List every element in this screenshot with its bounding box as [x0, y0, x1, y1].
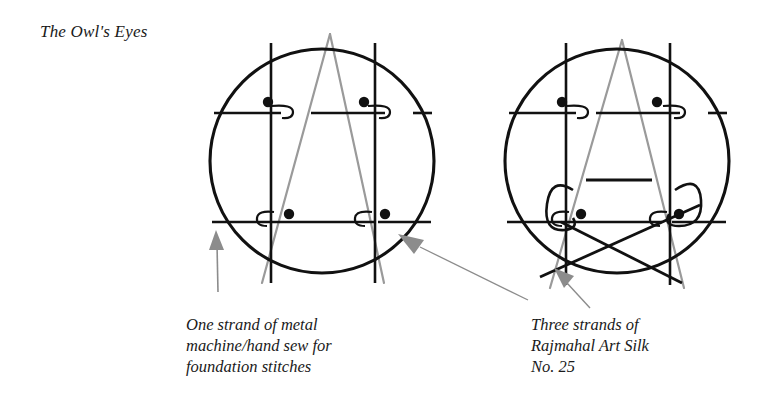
arrow-head-left — [209, 230, 224, 250]
caption-right-line-3: No. 25 — [531, 356, 649, 377]
right-eye-dot-top-1 — [557, 97, 567, 107]
arrow-head-right — [554, 268, 574, 288]
right-hook-curve-2 — [667, 184, 701, 226]
arrow-shaft-right — [567, 283, 590, 308]
diagram-svg — [0, 0, 773, 405]
caption-left-line-1: One strand of metal — [186, 314, 332, 335]
left-thread-lines — [262, 34, 384, 283]
right-outline-circle — [505, 49, 729, 273]
right-hook-curve-1 — [546, 185, 574, 230]
right-diagram-group — [505, 40, 729, 288]
arrow-shaft-left — [217, 244, 218, 292]
left-eye-dot-bottom-1 — [284, 209, 294, 219]
left-outline-circle — [210, 49, 434, 273]
right-eye-dot-bottom-2 — [674, 209, 684, 219]
caption-right-line-2: Rajmahal Art Silk — [531, 335, 649, 356]
arrow-head-middle — [398, 234, 424, 254]
caption-left-line-3: foundation stitches — [186, 356, 332, 377]
right-thread-line-left-down — [550, 40, 622, 288]
right-eye-dot-bottom-1 — [576, 209, 586, 219]
caption-left-line-2: machine/hand sew for — [186, 335, 332, 356]
left-eye-dot-bottom-2 — [380, 209, 390, 219]
caption-left: One strand of metal machine/hand sew for… — [186, 314, 332, 377]
left-diagram-group — [210, 34, 434, 283]
left-eye-dot-top-2 — [359, 97, 369, 107]
arrow-shaft-middle — [420, 247, 528, 300]
right-eye-dot-top-2 — [652, 97, 662, 107]
illustration-canvas: The Owl's Eyes — [0, 0, 773, 405]
caption-right-line-1: Three strands of — [531, 314, 649, 335]
caption-right: Three strands of Rajmahal Art Silk No. 2… — [531, 314, 649, 377]
left-eye-dot-top-1 — [263, 97, 273, 107]
right-thread-line-right-down — [622, 40, 684, 288]
